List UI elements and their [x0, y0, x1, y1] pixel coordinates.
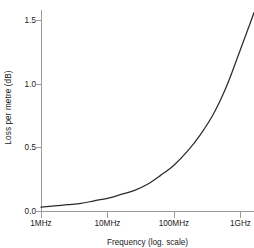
chart-curve-layer	[0, 0, 254, 248]
x-axis-title: Frequency (log. scale)	[41, 238, 254, 247]
loss-curve	[41, 13, 254, 208]
loss-per-metre-chart: Loss per metre (dB) 0.00.51.01.5 1MHz10M…	[0, 0, 254, 248]
